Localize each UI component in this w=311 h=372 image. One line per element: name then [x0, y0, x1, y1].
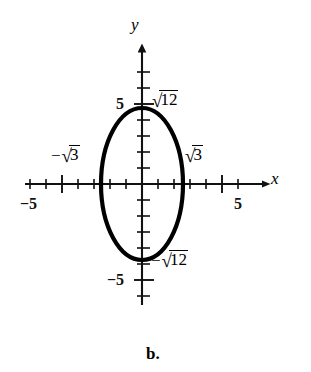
sqrt-symbol-group: √12 — [152, 90, 178, 109]
figure-caption: b. — [146, 345, 160, 362]
coordinate-plane-plot — [0, 0, 311, 372]
y-tick-label-positive-5: 5 — [116, 96, 124, 112]
annotation-sqrt3-positive: √3 — [185, 145, 203, 164]
x-tick-label-positive-5: 5 — [234, 196, 242, 212]
y-axis-label: y — [131, 16, 139, 33]
x-tick-label-negative-5: −5 — [20, 196, 37, 212]
x-axis-label: x — [271, 170, 279, 187]
minus-sign: − — [51, 147, 62, 164]
minus-sign: − — [151, 252, 162, 269]
radicand-value: 3 — [192, 145, 203, 163]
y-tick-label-negative-5: −5 — [107, 272, 124, 288]
annotation-sqrt3-negative: −√3 — [51, 145, 80, 164]
annotation-sqrt12-positive: √12 — [152, 90, 178, 109]
radicand-value: 12 — [159, 90, 178, 108]
radicand-value: 12 — [169, 250, 188, 268]
sqrt-symbol-group: √3 — [62, 145, 80, 164]
x-axis-group — [25, 175, 262, 193]
sqrt-symbol-group: √3 — [185, 145, 203, 164]
annotation-sqrt12-negative: −√12 — [151, 250, 188, 269]
figure-container: y x 5 −5 −5 5 √12 −√12 −√3 √3 b. — [0, 0, 311, 372]
sqrt-symbol-group: √12 — [162, 250, 188, 269]
radicand-value: 3 — [69, 145, 80, 163]
